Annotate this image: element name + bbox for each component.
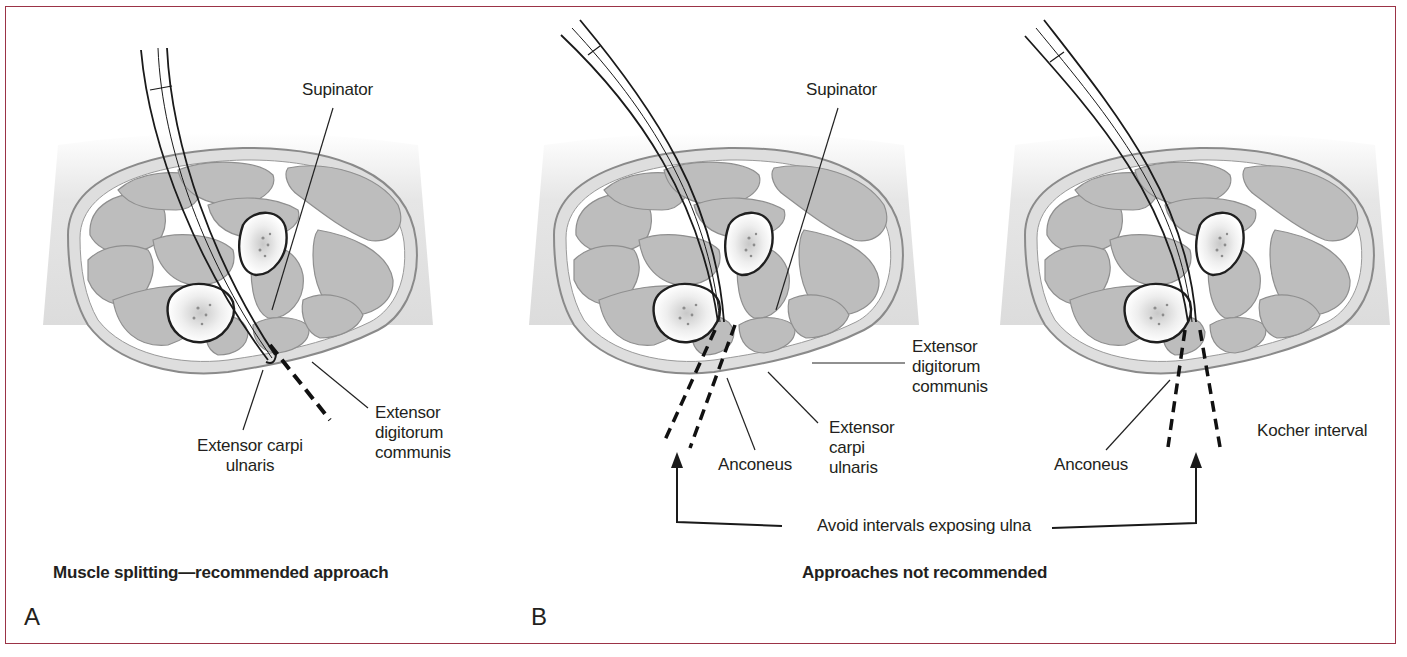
label-ecu-a: Extensor carpi ulnaris	[180, 436, 320, 476]
label-anconeus-b2: Anconeus	[1054, 455, 1128, 475]
label-ecu-b-line3: ulnaris	[829, 458, 895, 478]
panel-letter-a: A	[24, 603, 40, 631]
label-anconeus-b1: Anconeus	[718, 455, 792, 475]
label-kocher-interval: Kocher interval	[1257, 421, 1367, 441]
label-edc-a-line1: Extensor	[375, 403, 451, 423]
label-edc-b-line2: digitorum	[912, 357, 988, 377]
label-edc-b-line1: Extensor	[912, 337, 988, 357]
label-ecu-a-line1: Extensor carpi	[180, 436, 320, 456]
cross-section-a	[43, 133, 433, 374]
label-supinator-b: Supinator	[806, 80, 877, 100]
label-edc-a-line2: digitorum	[375, 423, 451, 443]
caption-a: Muscle splitting—recommended approach	[53, 563, 389, 583]
label-ecu-b: Extensor carpi ulnaris	[829, 418, 895, 478]
label-supinator-a: Supinator	[302, 80, 373, 100]
panel-letter-b: B	[531, 603, 547, 631]
cross-section-b2	[1000, 133, 1390, 374]
leader-line-b2-anconeus	[1106, 380, 1170, 450]
label-edc-b-line3: communis	[912, 377, 988, 397]
label-edc-b: Extensor digitorum communis	[912, 337, 988, 397]
figure-illustration	[0, 0, 1407, 657]
label-ecu-a-line2: ulnaris	[180, 456, 320, 476]
label-ecu-b-line2: carpi	[829, 438, 895, 458]
cross-section-b1	[529, 133, 919, 374]
callout-avoid-intervals: Avoid intervals exposing ulna	[817, 516, 1031, 536]
label-edc-a: Extensor digitorum communis	[375, 403, 451, 463]
label-ecu-b-line1: Extensor	[829, 418, 895, 438]
label-edc-a-line3: communis	[375, 443, 451, 463]
caption-b: Approaches not recommended	[802, 563, 1047, 583]
